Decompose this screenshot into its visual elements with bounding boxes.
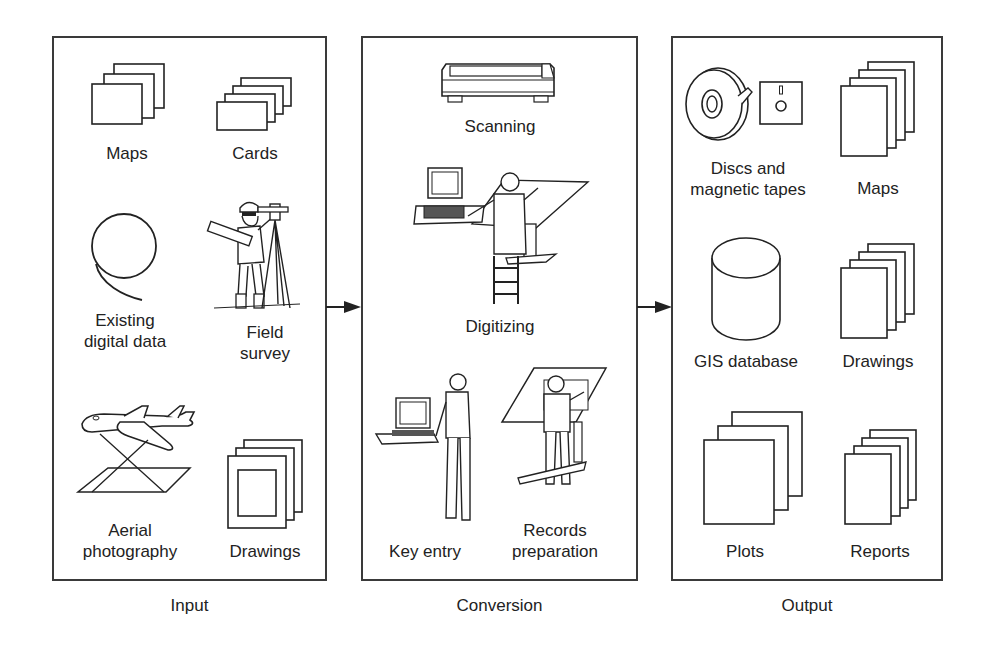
- output-maps-label: Maps: [828, 178, 928, 199]
- gis-data-flow-diagram: Maps Cards Existing digital data: [0, 0, 990, 651]
- conversion-scanning-label: Scanning: [440, 116, 560, 137]
- database-cylinder-icon: [708, 236, 784, 344]
- input-existing-digital-data-label: Existing digital data: [70, 310, 180, 352]
- stacked-sheets-icon: [844, 428, 918, 526]
- output-reports-label: Reports: [832, 541, 928, 562]
- tape-reel-and-disk-icon: [684, 66, 804, 142]
- output-plots-label: Plots: [700, 541, 790, 562]
- drafting-table-icon: [498, 366, 608, 496]
- input-panel-title: Input: [52, 596, 327, 616]
- output-discs-and-tapes-label: Discs and magnetic tapes: [684, 158, 812, 200]
- output-drawings-label: Drawings: [826, 351, 930, 372]
- stacked-sheets-icon: [840, 242, 916, 342]
- tape-coil-icon: [84, 208, 164, 304]
- stacked-sheets-icon: [840, 60, 916, 158]
- surveyor-icon: [198, 196, 302, 314]
- framed-drawings-icon: [226, 438, 306, 534]
- stacked-cards-icon: [215, 76, 295, 132]
- digitizing-workstation-icon: [412, 158, 590, 306]
- input-field-survey-label: Field survey: [220, 322, 310, 364]
- key-entry-operator-icon: [372, 372, 472, 532]
- scanner-icon: [438, 58, 560, 108]
- conversion-records-preparation-label: Records preparation: [490, 520, 620, 562]
- stacked-sheets-icon: [702, 410, 804, 526]
- arrow-input-to-conversion-icon: [326, 300, 362, 314]
- input-aerial-photography-label: Aerial photography: [68, 520, 192, 562]
- input-cards-label: Cards: [210, 143, 300, 164]
- conversion-panel-title: Conversion: [361, 596, 638, 616]
- conversion-digitizing-label: Digitizing: [440, 316, 560, 337]
- arrow-conversion-to-output-icon: [637, 300, 673, 314]
- airplane-icon: [74, 404, 198, 504]
- output-panel-title: Output: [671, 596, 943, 616]
- input-maps-label: Maps: [86, 143, 168, 164]
- stacked-sheets-icon: [86, 62, 168, 126]
- input-drawings-label: Drawings: [215, 541, 315, 562]
- conversion-key-entry-label: Key entry: [370, 541, 480, 562]
- output-gis-database-label: GIS database: [684, 351, 808, 372]
